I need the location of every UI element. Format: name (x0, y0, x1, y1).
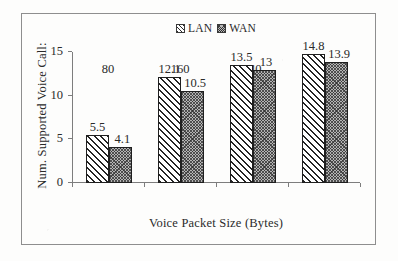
bar-value-lan-80: 5.5 (90, 120, 106, 135)
bar-value-lan-320: 14.8 (303, 39, 325, 54)
x-tick-boundary-1 (144, 183, 145, 187)
y-tick-label-1: 5 (57, 132, 63, 147)
x-tick-boundary-2 (216, 183, 217, 187)
legend-label-lan: LAN (188, 22, 212, 34)
y-tick-3: 15 (68, 51, 72, 52)
lan-pattern-swatch (176, 24, 185, 33)
bar-value-wan-320: 13.9 (328, 47, 350, 62)
bar-wan-80[interactable]: 4.1 (109, 147, 132, 183)
bar-lan-240[interactable]: 13.5 (230, 65, 253, 183)
y-tick-2: 10 (68, 95, 72, 96)
bar-lan-80[interactable]: 5.5 (86, 135, 109, 183)
bar-value-lan-160: 12.1 (159, 62, 181, 77)
y-axis (72, 52, 73, 183)
figure-canvas: LAN WAN 0 5 10 15 80 160 240 (0, 0, 398, 261)
y-tick-label-3: 15 (51, 44, 64, 59)
legend-label-wan: WAN (229, 22, 256, 34)
y-tick-label-2: 10 (51, 88, 64, 103)
y-tick-label-0: 0 (57, 175, 63, 190)
x-tick-boundary-3 (288, 183, 289, 187)
bar-value-wan-240: 13 (260, 55, 273, 70)
bar-wan-320[interactable]: 13.9 (325, 62, 348, 183)
bar-lan-320[interactable]: 14.8 (302, 54, 325, 183)
legend-entry-wan: WAN (217, 22, 256, 34)
bar-lan-160[interactable]: 12.1 (158, 77, 181, 183)
bar-wan-160[interactable]: 10.5 (181, 91, 204, 183)
y-tick-1: 5 (68, 138, 72, 139)
x-tick-boundary-4 (360, 183, 361, 187)
x-axis-title: Voice Packet Size (Bytes) (72, 216, 360, 231)
chart-legend: LAN WAN (176, 20, 256, 36)
x-tick-label-80: 80 (102, 62, 115, 77)
bar-value-wan-80: 4.1 (115, 132, 131, 147)
y-axis-title: Num. Supported Voice Call: (35, 36, 50, 196)
bar-value-wan-160: 10.5 (184, 76, 206, 91)
plot-area: 0 5 10 15 80 160 240 320 5.5 4.1 12.1 (72, 52, 360, 183)
bar-value-lan-240: 13.5 (231, 50, 253, 65)
bar-wan-240[interactable]: 13 (253, 70, 276, 184)
x-tick-boundary-0 (72, 183, 73, 187)
wan-pattern-swatch (217, 24, 226, 33)
legend-entry-lan: LAN (176, 22, 212, 34)
